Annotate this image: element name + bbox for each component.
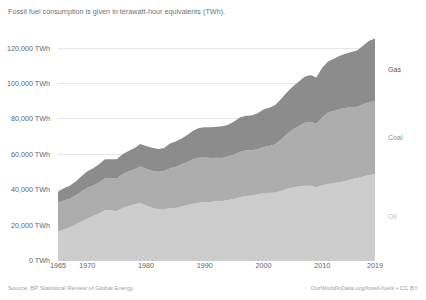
- series-label-coal: Coal: [388, 134, 402, 141]
- x-axis-tick-label: 1990: [197, 261, 213, 270]
- x-axis-tick-label: 2019: [367, 261, 383, 270]
- y-axis-tick-label: 100,000 TWh: [7, 79, 50, 88]
- y-axis-tick-label: 40,000 TWh: [11, 185, 50, 194]
- x-axis: 1965197019801990200020102019: [58, 261, 375, 275]
- y-axis-tick-label: 0 TWh: [29, 256, 50, 265]
- x-axis-tick-label: 2000: [255, 261, 271, 270]
- y-axis-tick-label: 20,000 TWh: [11, 220, 50, 229]
- fossil-fuel-consumption-chart: Fossil fuel consumption is given in tera…: [0, 0, 426, 300]
- x-axis-tick-label: 1965: [50, 261, 66, 270]
- footer-credit[interactable]: OurWorldInData.org/fossil-fuels • CC BY: [311, 285, 418, 291]
- series-label-oil: Oil: [388, 213, 397, 220]
- x-axis-tick-label: 1970: [79, 261, 95, 270]
- y-axis-tick-label: 80,000 TWh: [11, 114, 50, 123]
- plot-area: [58, 30, 375, 260]
- y-axis: 0 TWh20,000 TWh40,000 TWh60,000 TWh80,00…: [0, 30, 54, 260]
- x-axis-tick-label: 1980: [138, 261, 154, 270]
- y-axis-tick-label: 60,000 TWh: [11, 149, 50, 158]
- series-label-gas: Gas: [388, 66, 401, 73]
- stacked-area-series: [58, 30, 375, 260]
- footer-source: Source: BP Statistical Review of Global …: [8, 285, 133, 291]
- y-axis-tick-label: 120,000 TWh: [7, 43, 50, 52]
- x-axis-tick-label: 2010: [314, 261, 330, 270]
- chart-subtitle: Fossil fuel consumption is given in tera…: [8, 7, 225, 16]
